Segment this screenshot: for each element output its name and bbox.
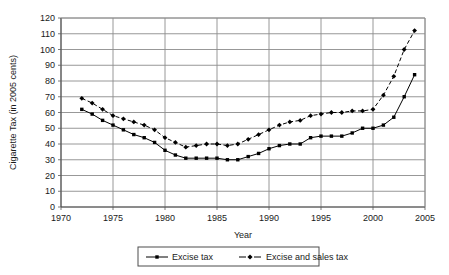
cigarette-tax-line-chart: 0102030405060708090100110120197019751980… (0, 0, 449, 275)
y-axis-tick-label: 40 (45, 139, 55, 149)
chart-container: 0102030405060708090100110120197019751980… (0, 0, 449, 275)
y-axis-tick-label: 100 (40, 45, 55, 55)
data-point-marker (132, 133, 135, 136)
y-axis-tick-label: 120 (40, 13, 55, 23)
y-axis-tick-label: 60 (45, 108, 55, 118)
data-point-marker (226, 158, 229, 161)
data-point-marker (309, 136, 312, 139)
x-axis-tick-label: 1970 (51, 213, 71, 223)
data-point-marker (205, 156, 208, 159)
x-axis-tick-label: 1975 (103, 213, 123, 223)
data-point-marker (163, 149, 166, 152)
data-point-marker (80, 108, 83, 111)
data-point-marker (195, 156, 198, 159)
legend-label-excise-tax: Excise tax (172, 252, 214, 262)
data-point-marker (299, 142, 302, 145)
y-axis-tick-label: 110 (41, 29, 55, 39)
y-axis-tick-label: 50 (45, 123, 55, 133)
data-point-marker (122, 128, 125, 131)
data-point-marker (403, 95, 406, 98)
x-axis-tick-label: 2000 (363, 213, 383, 223)
data-point-marker (267, 147, 270, 150)
y-axis-tick-label: 10 (45, 186, 55, 196)
y-axis-tick-label: 20 (45, 171, 55, 181)
data-point-marker (413, 73, 416, 76)
y-axis-tick-label: 70 (45, 92, 55, 102)
y-axis-title: Cigarette Tax (in 2005 cents) (8, 55, 18, 170)
data-point-marker (257, 152, 260, 155)
data-point-marker (330, 134, 333, 137)
data-point-marker (153, 141, 156, 144)
data-point-marker (236, 158, 239, 161)
x-axis-tick-label: 1980 (155, 213, 175, 223)
data-point-marker (288, 142, 291, 145)
y-axis-tick-label: 80 (45, 76, 55, 86)
data-point-marker (371, 127, 374, 130)
x-axis-tick-label: 2005 (415, 213, 435, 223)
data-point-marker (278, 144, 281, 147)
data-point-marker (101, 119, 104, 122)
data-point-marker (184, 156, 187, 159)
data-point-marker (382, 123, 385, 126)
x-axis-title: Year (234, 230, 252, 240)
data-point-marker (174, 153, 177, 156)
data-point-marker (361, 127, 364, 130)
data-point-marker (111, 123, 114, 126)
x-axis-tick-label: 1990 (259, 213, 279, 223)
data-point-marker (319, 134, 322, 137)
data-point-marker (91, 112, 94, 115)
legend-label-excise-and-sales-tax: Excise and sales tax (266, 252, 349, 262)
data-point-marker (340, 134, 343, 137)
data-point-marker (392, 116, 395, 119)
data-point-marker (215, 156, 218, 159)
x-axis-tick-label: 1985 (207, 213, 227, 223)
data-point-marker (143, 136, 146, 139)
data-point-marker (247, 155, 250, 158)
x-axis-tick-label: 1995 (311, 213, 331, 223)
y-axis-tick-label: 0 (50, 202, 55, 212)
legend-marker-excise-tax (155, 255, 158, 258)
y-axis-tick-label: 30 (45, 155, 55, 165)
y-axis-tick-label: 90 (45, 60, 55, 70)
data-point-marker (351, 131, 354, 134)
